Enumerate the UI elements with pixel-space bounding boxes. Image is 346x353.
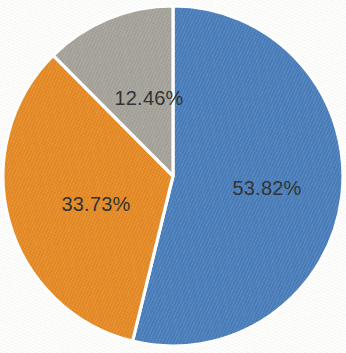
pie-chart: 53.82%33.73%12.46% [0, 0, 346, 353]
pie-slice-label: 53.82% [232, 178, 301, 198]
pie-slice-label: 33.73% [61, 194, 130, 214]
pie-slice-label: 12.46% [114, 88, 183, 108]
pie-slices-group [3, 6, 343, 346]
